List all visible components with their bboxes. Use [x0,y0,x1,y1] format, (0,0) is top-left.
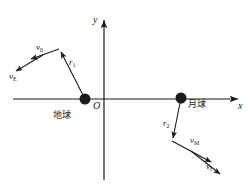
vector-label-r2-base: r [163,118,167,128]
vector-label-v0-sub: 0 [40,47,43,53]
vector-label-r1-base: r [69,57,73,67]
vector-label-r2: r2 [163,119,170,128]
vector-label-vE-sub: E [13,76,17,82]
diagram-canvas [0,0,252,192]
vector-r2 [173,98,181,138]
moon-label: 月球 [188,100,206,109]
vector-label-vE: vE [9,72,17,81]
vector-label-r1: r1 [69,58,76,67]
vector-label-r1-sub: 1 [73,62,76,68]
x-axis-label: x [238,101,242,111]
vector-label-v0: v0 [36,43,43,52]
vector-label-vM: vM [190,136,199,145]
moon-body [176,93,187,104]
earth-body [80,94,91,105]
origin-label: O [93,101,100,111]
physics-diagram: x y O 地球 月球 r1 v0 vE r2 vM vf [0,0,252,192]
vector-label-vf-sub: f [210,166,212,172]
vector-label-vf: vf [206,162,212,171]
vector-vE [16,55,43,71]
earth-label: 地球 [53,111,71,120]
vector-label-vM-sub: M [194,140,199,146]
vector-label-r2-sub: 2 [167,123,170,129]
y-axis-label: y [93,15,97,25]
